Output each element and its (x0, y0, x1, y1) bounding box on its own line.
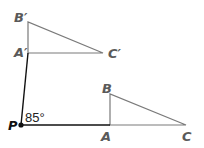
rotation-diagram: B′ A′ C′ B A C P 85° (0, 0, 204, 148)
label-b-prime: B′ (14, 10, 28, 25)
angle-label: 85° (25, 110, 45, 125)
label-a-prime: A′ (13, 45, 28, 60)
label-a: A (100, 129, 111, 144)
label-c-prime: C′ (108, 46, 122, 61)
center-point-p (18, 122, 23, 127)
triangle-a-prime-b-prime-c-prime (28, 22, 103, 53)
triangle-abc (110, 94, 186, 125)
label-c: C (182, 129, 192, 144)
label-b: B (102, 81, 112, 96)
label-p: P (8, 118, 18, 133)
